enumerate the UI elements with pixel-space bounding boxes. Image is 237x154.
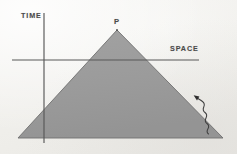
- apex-point-marker: [116, 29, 118, 31]
- wavy-arrow-head: [194, 95, 200, 100]
- time-axis-label: TIME: [21, 11, 42, 20]
- apex-point-label: P: [114, 17, 119, 26]
- figure-canvas: TIME SPACE P: [0, 0, 237, 154]
- space-axis-label: SPACE: [170, 44, 199, 53]
